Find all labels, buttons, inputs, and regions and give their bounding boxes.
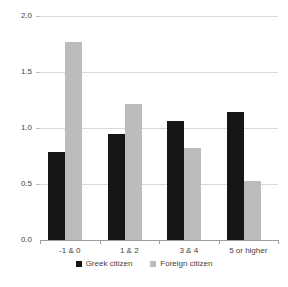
bar-greek-citizen	[227, 112, 244, 240]
legend-swatch-icon	[76, 261, 82, 267]
x-axis-tick	[278, 241, 279, 244]
y-axis-label: 1.5	[0, 68, 32, 76]
x-axis-label: 3 & 4	[159, 246, 219, 256]
x-axis-label: 1 & 2	[100, 246, 160, 256]
chart-legend: Greek citizenForeign citizen	[0, 259, 288, 268]
bar-chart: -1 & 01 & 23 & 45 or higher Greek citize…	[0, 0, 288, 287]
legend-item-foreign-citizen: Foreign citizen	[150, 259, 212, 268]
bar-pair	[227, 112, 261, 240]
bar-foreign-citizen	[244, 181, 261, 240]
y-axis-label: 0.5	[0, 180, 32, 188]
x-axis-label: -1 & 0	[40, 246, 100, 256]
bar-pair	[48, 42, 82, 240]
bar-group-3	[159, 16, 219, 240]
bar-foreign-citizen	[125, 104, 142, 240]
bar-group-2	[100, 16, 160, 240]
bar-greek-citizen	[108, 134, 125, 240]
bar-foreign-citizen	[184, 148, 201, 240]
bar-group-1	[40, 16, 100, 240]
bar-greek-citizen	[48, 152, 65, 240]
x-axis-tick	[40, 241, 41, 244]
x-axis-tick	[219, 241, 220, 244]
plot-area	[40, 16, 278, 240]
y-axis-label: 0.0	[0, 236, 32, 244]
bar-pair	[167, 121, 201, 240]
bar-greek-citizen	[167, 121, 184, 240]
legend-item-greek-citizen: Greek citizen	[76, 259, 133, 268]
legend-swatch-icon	[150, 261, 156, 267]
bar-group-4	[219, 16, 279, 240]
x-axis-tick	[159, 241, 160, 244]
y-axis-label: 2.0	[0, 12, 32, 20]
legend-label: Greek citizen	[86, 259, 133, 268]
x-axis-label: 5 or higher	[219, 246, 279, 256]
bar-pair	[108, 104, 142, 240]
bar-foreign-citizen	[65, 42, 82, 240]
legend-label: Foreign citizen	[160, 259, 212, 268]
y-axis-label: 1.0	[0, 124, 32, 132]
x-axis-tick	[100, 241, 101, 244]
